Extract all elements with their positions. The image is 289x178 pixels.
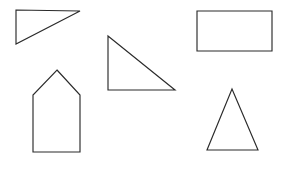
pentagon-house-bottom-left bbox=[33, 70, 80, 152]
right-triangle-middle bbox=[108, 36, 175, 90]
shapes-canvas bbox=[0, 0, 289, 178]
right-triangle-top-left bbox=[16, 10, 80, 44]
rectangle-top-right bbox=[197, 11, 272, 51]
shape-drawing-surface bbox=[0, 0, 289, 178]
triangle-bottom-right bbox=[207, 89, 258, 150]
